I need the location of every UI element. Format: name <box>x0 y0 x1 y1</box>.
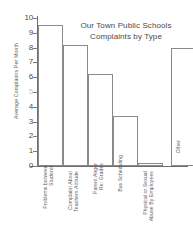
y-axis-label-4: 4 <box>19 103 33 111</box>
x-axis-label-physical-or-sexual-abuse-by-employees: Physical or Sexual Abuse By Employees <box>143 171 155 245</box>
x-axis-label-bus-scheduling: Bus Scheduling <box>118 155 124 229</box>
x-axis-label-parent-anger-re-grades: Parent Anger Re: Grades <box>93 163 105 237</box>
y-axis-label-2: 2 <box>19 132 33 140</box>
y-axis-label-9: 9 <box>19 29 33 37</box>
bar-parent-anger-re-grades[interactable] <box>88 74 113 166</box>
x-axis-label-problems-between-students: Problems between Students <box>43 165 55 239</box>
bar-physical-or-sexual-abuse-by-employees[interactable] <box>138 163 163 166</box>
bar-complaint-about-teachers-attitude[interactable] <box>63 45 88 166</box>
y-axis-label-8: 8 <box>19 44 33 52</box>
x-axis-labels: Problems between Students Complaint Abou… <box>0 167 193 245</box>
y-axis-label-5: 5 <box>19 88 33 96</box>
y-axis-label-10: 10 <box>19 14 33 22</box>
x-axis-label-complaint-about-teachers-attitude: Complaint About Teachers Attitude <box>68 171 80 245</box>
bar-chart: Average Complaints Per Month 10 9 8 7 6 … <box>0 0 193 245</box>
y-axis-label-7: 7 <box>19 58 33 66</box>
y-axis-label-1: 1 <box>19 147 33 155</box>
y-axis-label-6: 6 <box>19 73 33 81</box>
x-axis-label-other: Other <box>176 140 182 214</box>
bar-problems-between-students[interactable] <box>38 25 63 166</box>
y-axis-label-3: 3 <box>19 118 33 126</box>
plot-area <box>38 18 186 166</box>
